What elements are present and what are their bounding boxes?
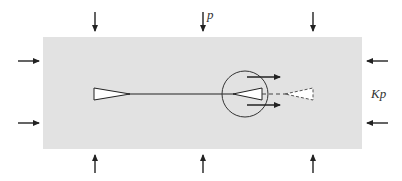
diagram-canvas: p Kp [0, 0, 402, 181]
left-load-arrows [18, 61, 39, 123]
vertical-load-label: p [207, 7, 214, 23]
plate [43, 37, 362, 149]
bottom-load-arrows [95, 155, 313, 173]
diagram-svg [0, 0, 402, 181]
top-load-arrows [95, 12, 313, 31]
horizontal-load-label: Kp [371, 86, 386, 102]
